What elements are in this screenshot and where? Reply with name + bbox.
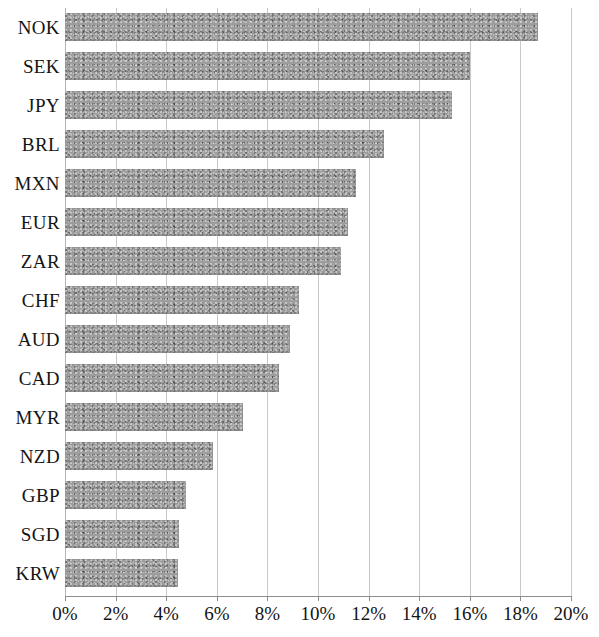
plot-area bbox=[65, 8, 571, 597]
bar-row bbox=[65, 8, 571, 47]
category-label: NZD bbox=[2, 437, 60, 476]
category-label: SGD bbox=[2, 515, 60, 554]
x-tick-label: 6% bbox=[189, 603, 245, 625]
x-tick-label: 0% bbox=[37, 603, 93, 625]
category-label: EUR bbox=[2, 203, 60, 242]
bar bbox=[65, 247, 341, 275]
x-tick-label: 18% bbox=[492, 603, 548, 625]
bar-row bbox=[65, 515, 571, 554]
gridline bbox=[571, 8, 572, 597]
bar-row bbox=[65, 125, 571, 164]
category-label: GBP bbox=[2, 476, 60, 515]
bar bbox=[65, 13, 538, 41]
x-tick-label: 12% bbox=[341, 603, 397, 625]
bar bbox=[65, 169, 356, 197]
tick-mark bbox=[166, 597, 167, 601]
bar-row bbox=[65, 164, 571, 203]
category-label: SEK bbox=[2, 47, 60, 86]
tick-mark bbox=[419, 597, 420, 601]
bar-row bbox=[65, 554, 571, 593]
x-tick-label: 10% bbox=[290, 603, 346, 625]
bar bbox=[65, 520, 179, 548]
bar bbox=[65, 208, 348, 236]
tick-mark bbox=[267, 597, 268, 601]
bar-row bbox=[65, 359, 571, 398]
category-label: ZAR bbox=[2, 242, 60, 281]
category-label: JPY bbox=[2, 86, 60, 125]
bar-series bbox=[65, 8, 571, 597]
bar bbox=[65, 364, 279, 392]
bar bbox=[65, 130, 384, 158]
tick-mark bbox=[318, 597, 319, 601]
bar-row bbox=[65, 437, 571, 476]
x-tick-label: 4% bbox=[138, 603, 194, 625]
x-tick-label: 20% bbox=[543, 603, 599, 625]
bar bbox=[65, 286, 299, 314]
x-tick-label: 2% bbox=[88, 603, 144, 625]
bar bbox=[65, 403, 243, 431]
x-tick-label: 16% bbox=[442, 603, 498, 625]
bar-row bbox=[65, 203, 571, 242]
category-label: KRW bbox=[2, 554, 60, 593]
category-label: MXN bbox=[2, 164, 60, 203]
tick-mark bbox=[520, 597, 521, 601]
bar bbox=[65, 325, 290, 353]
category-label: BRL bbox=[2, 125, 60, 164]
tick-mark bbox=[369, 597, 370, 601]
category-label: CAD bbox=[2, 359, 60, 398]
bar bbox=[65, 52, 470, 80]
bar bbox=[65, 481, 186, 509]
x-tick-label: 14% bbox=[391, 603, 447, 625]
category-label: NOK bbox=[2, 8, 60, 47]
bar-row bbox=[65, 476, 571, 515]
bar-row bbox=[65, 320, 571, 359]
bar-row bbox=[65, 242, 571, 281]
tick-mark bbox=[470, 597, 471, 601]
bar-row bbox=[65, 281, 571, 320]
tick-mark bbox=[116, 597, 117, 601]
tick-mark bbox=[217, 597, 218, 601]
category-label: MYR bbox=[2, 398, 60, 437]
category-label: AUD bbox=[2, 320, 60, 359]
bar-row bbox=[65, 398, 571, 437]
bar bbox=[65, 442, 213, 470]
bar bbox=[65, 91, 452, 119]
tick-mark bbox=[65, 597, 66, 601]
bar-row bbox=[65, 86, 571, 125]
bar-row bbox=[65, 47, 571, 86]
bar-chart: NOKSEKJPYBRLMXNEURZARCHFAUDCADMYRNZDGBPS… bbox=[0, 0, 599, 637]
bar bbox=[65, 559, 178, 587]
category-label: CHF bbox=[2, 281, 60, 320]
category-axis-labels: NOKSEKJPYBRLMXNEURZARCHFAUDCADMYRNZDGBPS… bbox=[0, 8, 60, 597]
tick-mark bbox=[571, 597, 572, 601]
x-tick-label: 8% bbox=[239, 603, 295, 625]
